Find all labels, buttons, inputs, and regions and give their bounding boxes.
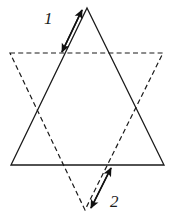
arrow-1-label: 1 — [44, 10, 53, 27]
hexagram-figure: 1 2 — [0, 0, 172, 220]
arrow-2-shaft-up — [91, 168, 111, 208]
upward-triangle — [11, 8, 164, 165]
arrow-1 — [62, 10, 82, 52]
downward-triangle — [10, 53, 163, 210]
figure-canvas — [0, 0, 172, 220]
arrow-2-label: 2 — [110, 193, 119, 210]
arrow-2 — [91, 168, 111, 208]
arrow-1-shaft-up — [62, 10, 82, 52]
